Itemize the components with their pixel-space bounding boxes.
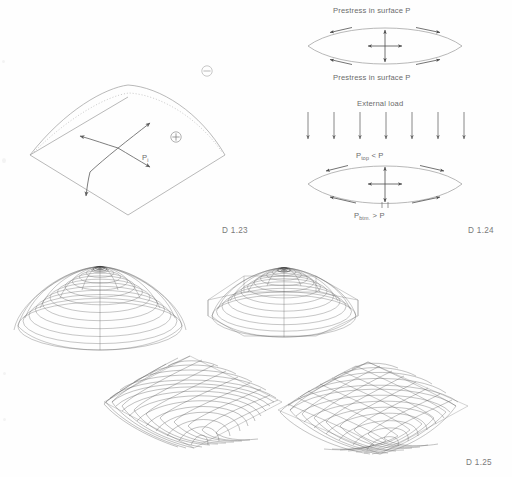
negative-curvature-symbol — [202, 66, 212, 76]
surface-edge-curve-right — [128, 85, 225, 155]
shell-polygonal-base-dome — [198, 240, 383, 358]
caption-d125: D 1.25 — [466, 458, 492, 467]
page-edge-artifact — [2, 158, 6, 163]
surface-edge-front-left — [30, 155, 128, 215]
figure-membrane-surface: Pi — [10, 40, 250, 220]
page-edge-artifact — [3, 372, 6, 375]
page-edge-artifact — [2, 60, 5, 63]
curvature-arrow-convex — [90, 123, 150, 172]
shell-triangulated-dome — [274, 348, 474, 460]
shell-square-plan-grid-dome — [98, 344, 288, 456]
p-top-label: Ptop < P — [356, 151, 384, 160]
curvature-arrow-convex-tail — [86, 172, 90, 196]
prestress-lens-unloaded — [308, 28, 462, 65]
surface-edge-curve-left — [30, 85, 128, 155]
membrane-pressure-label: Pi — [142, 153, 149, 162]
prestress-bottom-label: Prestress in surface P — [333, 73, 411, 82]
caption-d123: D 1.23 — [222, 226, 248, 235]
external-load-label: External load — [357, 99, 403, 108]
prestress-lens-loaded — [308, 166, 462, 209]
caption-d124: D 1.24 — [468, 226, 494, 235]
figure-prestress: Prestress in surface P — [300, 4, 500, 236]
p-bottom-label: Pbtm. > P — [354, 211, 385, 220]
diagram-page: Pi D 1.23 Prestress in surface P — [0, 0, 512, 477]
curvature-arrow-concave-left — [80, 136, 118, 148]
surface-edge-front-right — [128, 155, 225, 215]
external-load-arrows — [308, 112, 464, 139]
page-edge-artifact — [3, 418, 6, 421]
surface-ridge-dotted-line — [34, 93, 222, 152]
prestress-top-label: Prestress in surface P — [333, 6, 411, 15]
positive-curvature-symbol — [171, 132, 181, 142]
shell-radial-dome — [12, 238, 192, 356]
